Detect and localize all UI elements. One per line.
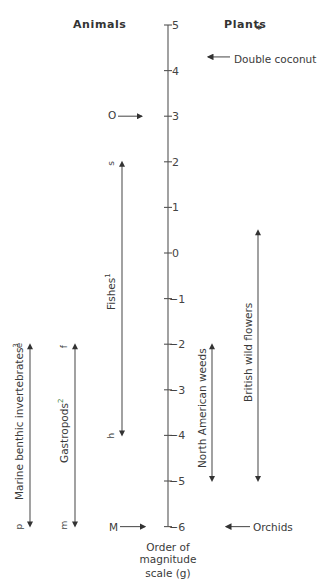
range-bottom-letter: p [14, 524, 24, 530]
axis-tick-label: 0 [172, 247, 179, 260]
arrow-down-icon [72, 522, 78, 528]
plant-point-top-label: Double coconut [234, 53, 316, 65]
axis-tick-label: 1 [172, 201, 179, 214]
range-gastropods: f m Gastropods2 [57, 343, 78, 529]
plants-asterisk: * [256, 23, 262, 36]
arrow-up-icon [119, 161, 125, 167]
range-top-letter: f [59, 344, 69, 348]
animal-point-top-label: O [108, 109, 116, 121]
axis-title-line-2: magnitude [140, 553, 197, 565]
range-bottom-letter: m [59, 521, 69, 530]
animal-point-bottom-label: M [109, 521, 118, 533]
range-label: North American weeds [196, 348, 208, 468]
axis-tick-label: 2 [172, 156, 179, 169]
arrow-up-icon [255, 229, 261, 235]
range-superscript: 1 [104, 273, 112, 277]
range-superscript: 3 [12, 343, 20, 347]
axis-tick-label: −5 [169, 475, 185, 488]
range-fishes: s h Fishes1 [104, 161, 125, 439]
range-north-american-weeds: North American weeds [196, 343, 215, 482]
axis-tick-label: −1 [169, 293, 185, 306]
plant-point-bottom-label: Orchids [253, 521, 293, 533]
range-label: British wild flowers [242, 303, 254, 402]
axis-title-line-3: scale (g) [145, 567, 190, 579]
range-label: Marine benthic invertebrates3 [12, 343, 25, 500]
range-name: Gastropods [58, 403, 70, 463]
arrow-down-icon [119, 430, 125, 436]
animals-header: Animals [73, 18, 127, 31]
order-of-magnitude-diagram: Animals Plants * 543210−1−2−3−4−5−6 Orde… [0, 0, 324, 588]
range-name: Fishes [105, 278, 117, 310]
axis-title-line-1: Order of [146, 541, 190, 553]
range-name: Marine benthic invertebrates [13, 348, 25, 500]
arrow-down-icon [209, 476, 215, 482]
axis-tick-label: 5 [172, 19, 179, 32]
range-label: Fishes1 [104, 273, 117, 310]
range-bottom-letter: h [106, 433, 116, 439]
axis-tick-label: −4 [169, 429, 185, 442]
arrow-down-icon [27, 522, 33, 528]
axis-tick-label: 4 [172, 65, 179, 78]
range-top-letter: s [106, 161, 116, 166]
arrow-down-icon [255, 476, 261, 482]
magnitude-axis: 543210−1−2−3−4−5−6 [164, 19, 185, 534]
axis-tick-label: −2 [169, 338, 185, 351]
arrow-up-icon [72, 343, 78, 349]
arrow-up-icon [27, 343, 33, 349]
range-marine-benthic-invertebrates: e p Marine benthic invertebrates3 [12, 342, 33, 529]
axis-tick-label: −3 [169, 384, 185, 397]
range-label: Gastropods2 [57, 399, 70, 463]
range-british-wild-flowers: British wild flowers [242, 229, 261, 482]
axis-tick-label: −6 [169, 521, 185, 534]
arrow-up-icon [209, 343, 215, 349]
range-superscript: 2 [57, 399, 65, 403]
axis-tick-label: 3 [172, 110, 179, 123]
